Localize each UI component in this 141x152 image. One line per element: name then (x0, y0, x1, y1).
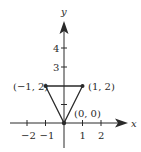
vertex-point (62, 121, 66, 125)
vertex-point (81, 84, 85, 88)
x-tick-label: −2 (21, 130, 36, 141)
y-axis-label: y (60, 6, 67, 17)
x-tick-label: 2 (98, 130, 104, 141)
x-axis-label: x (131, 118, 137, 129)
vertex-label: (1, 2) (88, 81, 115, 92)
vertex-label: (0, 0) (74, 108, 101, 119)
x-tick-label: 1 (80, 130, 86, 141)
y-tick-label: 4 (53, 43, 59, 54)
y-tick-label: 3 (53, 62, 59, 73)
coordinate-plane: x y −2 −1 1 2 3 4 (−1, 2) (1, 2) (0, 0) (0, 0, 141, 152)
x-tick-label: −1 (40, 130, 55, 141)
vertex-label: (−1, 2) (13, 81, 48, 92)
